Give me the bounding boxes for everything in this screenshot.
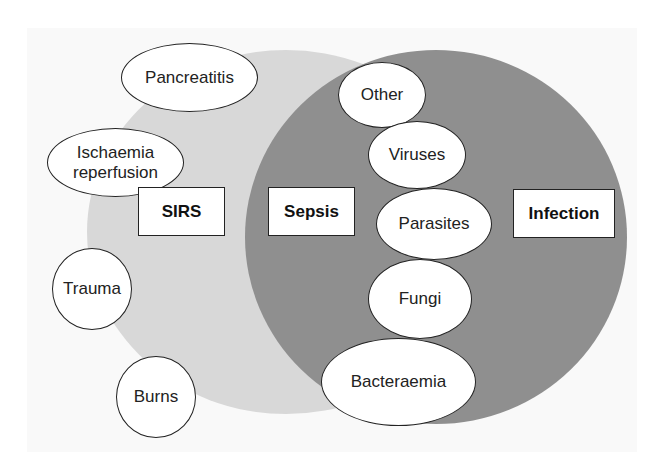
- infection-label: Infection: [529, 204, 600, 224]
- node-parasites-label: Parasites: [399, 214, 470, 234]
- node-viruses-label: Viruses: [389, 145, 445, 165]
- label-box-sirs: SIRS: [138, 187, 225, 236]
- node-bacteraemia: Bacteraemia: [321, 338, 476, 426]
- node-trauma: Trauma: [52, 248, 132, 330]
- label-box-infection: Infection: [513, 189, 615, 238]
- node-trauma-label: Trauma: [63, 279, 121, 299]
- node-fungi-label: Fungi: [399, 289, 442, 309]
- node-ischaemia-reperfusion-label: Ischaemia reperfusion: [73, 143, 158, 183]
- sepsis-label: Sepsis: [284, 202, 339, 222]
- sirs-label: SIRS: [162, 202, 202, 222]
- node-burns-label: Burns: [134, 387, 178, 407]
- node-viruses: Viruses: [368, 121, 466, 189]
- node-pancreatitis: Pancreatitis: [121, 43, 258, 112]
- node-other-label: Other: [361, 85, 404, 105]
- node-parasites: Parasites: [376, 188, 492, 260]
- node-burns: Burns: [116, 356, 196, 438]
- node-bacteraemia-label: Bacteraemia: [351, 372, 446, 392]
- sirs-sepsis-infection-venn-diagram: Pancreatitis Ischaemia reperfusion Traum…: [0, 0, 667, 472]
- node-fungi: Fungi: [368, 259, 472, 339]
- label-box-sepsis: Sepsis: [268, 187, 355, 236]
- node-other: Other: [338, 62, 426, 128]
- node-pancreatitis-label: Pancreatitis: [145, 68, 234, 88]
